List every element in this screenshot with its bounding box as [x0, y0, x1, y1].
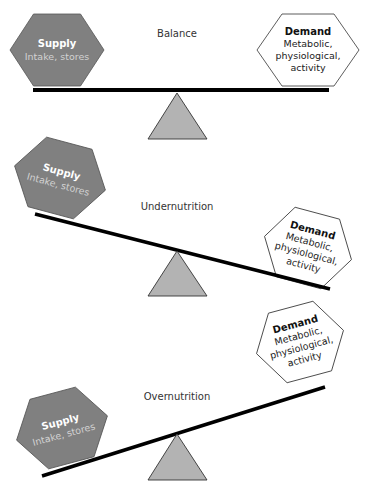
demand-line: activity: [290, 62, 325, 73]
fulcrum-triangle: [148, 93, 207, 139]
demand-line: physiological,: [276, 50, 341, 61]
demand-title: Demand: [285, 26, 332, 37]
panel-balance: Balance Supply Intake, stores Demand Met…: [10, 14, 359, 139]
hexagon-shape: [5, 131, 114, 225]
demand-hexagon-balance: Demand Metabolic, physiological, activit…: [257, 14, 359, 86]
state-label-balance: Balance: [157, 28, 197, 39]
demand-hexagon-overnutrition: Demand Metabolic, physiological, activit…: [247, 296, 353, 389]
panel-overnutrition: Overnutrition Demand Metabolic, physiolo…: [7, 296, 353, 480]
supply-hexagon-undernutrition: Supply Intake, stores: [5, 131, 114, 225]
supply-title: Supply: [38, 38, 77, 49]
state-label-overnutrition: Overnutrition: [144, 391, 211, 402]
state-label-undernutrition: Undernutrition: [141, 201, 214, 212]
nutrition-balance-diagram: Balance Supply Intake, stores Demand Met…: [0, 0, 365, 494]
supply-subtitle: Intake, stores: [25, 51, 89, 62]
supply-hexagon-balance: Supply Intake, stores: [10, 14, 104, 86]
fulcrum-triangle: [148, 251, 207, 296]
hexagon-shape: [7, 381, 116, 475]
demand-line: Metabolic,: [284, 38, 333, 49]
hexagon-shape: [10, 14, 104, 86]
demand-hexagon-undernutrition: Demand Metabolic, physiological, activit…: [255, 202, 361, 295]
supply-hexagon-overnutrition: Supply Intake, stores: [7, 381, 116, 475]
panel-undernutrition: Undernutrition Supply Intake, stores Dem…: [5, 131, 361, 296]
